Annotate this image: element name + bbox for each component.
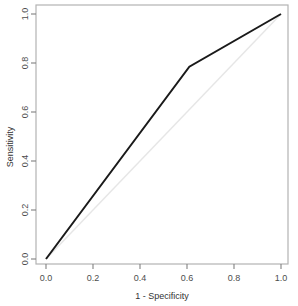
y-tick-label: 0.4	[20, 155, 30, 168]
x-axis-title: 1 - Specificity	[135, 291, 189, 301]
x-tick-label: 0.0	[40, 273, 53, 283]
y-axis-ticks	[31, 14, 36, 259]
x-tick-label: 0.6	[181, 273, 194, 283]
x-tick-label: 0.2	[87, 273, 100, 283]
y-tick-label: 0.0	[20, 253, 30, 266]
y-tick-label: 0.8	[20, 57, 30, 70]
x-tick-label: 1.0	[275, 273, 288, 283]
x-tick-label: 0.4	[134, 273, 147, 283]
x-axis-ticks	[46, 264, 281, 269]
y-tick-label: 0.6	[20, 106, 30, 119]
y-tick-label: 1.0	[20, 8, 30, 21]
y-tick-label: 0.2	[20, 204, 30, 217]
plot-panel-background	[36, 5, 288, 264]
y-axis-tick-labels: 0.0 0.2 0.4 0.6 0.8 1.0	[20, 8, 30, 266]
plot-canvas: 0.0 0.2 0.4 0.6 0.8 1.0 0.0 0.2 0.4 0.6 …	[0, 0, 298, 306]
x-axis-tick-labels: 0.0 0.2 0.4 0.6 0.8 1.0	[40, 273, 288, 283]
x-tick-label: 0.8	[228, 273, 241, 283]
y-axis-title: Sensitivity	[5, 126, 15, 167]
roc-curve-figure: 0.0 0.2 0.4 0.6 0.8 1.0 0.0 0.2 0.4 0.6 …	[0, 0, 298, 306]
